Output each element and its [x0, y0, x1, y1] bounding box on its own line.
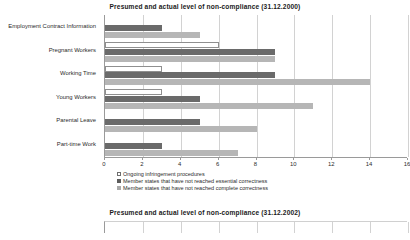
- axis-tick-label: 16: [404, 161, 410, 167]
- bar: [105, 56, 275, 62]
- category-label: Young Workers: [56, 94, 96, 101]
- legend-swatch-icon: [117, 172, 121, 176]
- value-axis: 0246810121416: [104, 157, 407, 170]
- legend-swatch-icon: [117, 179, 121, 183]
- bar: [105, 32, 200, 38]
- bar: [105, 66, 162, 72]
- bar: [105, 96, 200, 102]
- legend-item: Member states that have not reached comp…: [117, 185, 397, 191]
- axis-tick-label: 4: [178, 161, 181, 167]
- category-label: Parental Leave: [56, 117, 96, 124]
- bar: [105, 42, 219, 48]
- gridline: [294, 222, 295, 233]
- bar-group: [105, 40, 407, 64]
- legend-label: Member states that have not reached esse…: [123, 178, 267, 184]
- axis-tick-label: 2: [140, 161, 143, 167]
- gridlines-2002: [105, 222, 407, 233]
- plot-area: [104, 15, 407, 157]
- axis-tick: [142, 158, 143, 160]
- bar: [105, 103, 313, 109]
- gridline: [219, 222, 220, 233]
- axis-tick-label: 0: [102, 161, 105, 167]
- bar: [105, 119, 200, 125]
- bar: [105, 126, 257, 132]
- bar-group: [105, 63, 407, 87]
- chart-title-2000: Presumed and actual level of non-complia…: [0, 0, 410, 13]
- axis-tick: [331, 158, 332, 160]
- category-label: Pregnant Workers: [49, 47, 96, 54]
- gridline: [181, 222, 182, 233]
- axis-tick: [256, 158, 257, 160]
- bar-group: [105, 16, 407, 40]
- bar: [105, 79, 370, 85]
- axis-tick: [104, 158, 105, 160]
- bar-group: [105, 110, 407, 134]
- legend-item: Ongoing infringement procedures: [117, 171, 397, 177]
- axis-tick-label: 6: [216, 161, 219, 167]
- gridline: [408, 15, 409, 157]
- bar: [105, 143, 162, 149]
- gridline: [408, 222, 409, 233]
- chart-non-compliance-2000: Presumed and actual level of non-complia…: [0, 0, 410, 15]
- chart-non-compliance-2002: Presumed and actual level of non-complia…: [0, 206, 410, 221]
- axis-tick-label: 10: [290, 161, 297, 167]
- plot-area-2002: [104, 221, 407, 233]
- bar-group: [105, 134, 407, 158]
- gridline: [143, 222, 144, 233]
- chart-title-2002: Presumed and actual level of non-complia…: [0, 206, 410, 219]
- legend-item: Member states that have not reached esse…: [117, 178, 397, 184]
- bar: [105, 49, 275, 55]
- chart-legend: Ongoing infringement proceduresMember st…: [117, 171, 397, 192]
- bar: [105, 25, 162, 31]
- category-label: Working Time: [60, 70, 96, 77]
- axis-tick: [293, 158, 294, 160]
- gridline: [257, 222, 258, 233]
- axis-tick: [369, 158, 370, 160]
- axis-tick-label: 8: [254, 161, 257, 167]
- category-label: Part-time Work: [57, 141, 96, 148]
- axis-tick: [180, 158, 181, 160]
- axis-tick-label: 14: [366, 161, 373, 167]
- axis-tick: [407, 158, 408, 160]
- axis-tick-label: 12: [328, 161, 335, 167]
- gridline: [370, 222, 371, 233]
- bar: [105, 72, 275, 78]
- axis-tick: [218, 158, 219, 160]
- bar: [105, 150, 238, 156]
- legend-swatch-icon: [117, 186, 121, 190]
- category-label: Employment Contract Information: [8, 23, 96, 30]
- bar: [105, 89, 162, 95]
- legend-label: Ongoing infringement procedures: [123, 171, 205, 177]
- bar-group: [105, 87, 407, 111]
- legend-label: Member states that have not reached comp…: [123, 185, 268, 191]
- gridline: [332, 222, 333, 233]
